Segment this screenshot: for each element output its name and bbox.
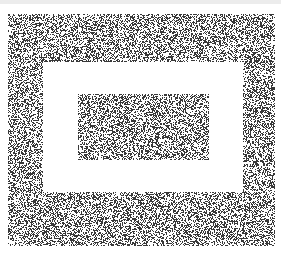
noise-pattern (0, 0, 281, 256)
random-dot-image (0, 0, 281, 256)
